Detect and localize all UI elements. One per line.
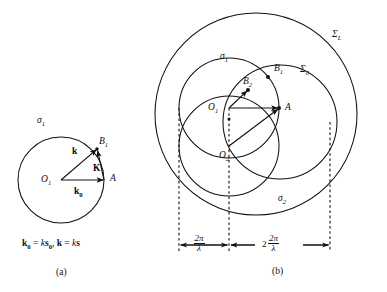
panel-b-label-O2: O2 xyxy=(219,151,229,162)
panel-b-label-A: A xyxy=(285,103,291,113)
panel-a-graphics xyxy=(18,137,104,223)
panel-b-label-sigma-2: σ2 xyxy=(278,194,286,205)
panel-b-label-sigma-1: σ1 xyxy=(220,52,228,63)
panel-b-label-B1: B1 xyxy=(274,64,283,75)
panel-b-graphics xyxy=(155,13,357,254)
panel-b-vector-O1-B2 xyxy=(229,91,247,108)
panel-a-veclabel-K: K xyxy=(93,163,100,173)
panel-b-caption: (b) xyxy=(272,266,283,276)
panel-a-veclabel-k: k xyxy=(72,146,77,156)
panel-b-label-Sigma-0: Σ0 xyxy=(300,65,309,76)
panel-b-circle-Sigma-0 xyxy=(223,65,337,179)
panel-a-veclabel-k0: k0 xyxy=(74,186,83,198)
panel-b-dim-diameter-label: 2 2π λ xyxy=(262,234,279,254)
figure-root: σ1 O1 A B1 k0 k K k0 = ks0, k = ks (a) Σ… xyxy=(0,0,387,292)
panel-a-caption: (a) xyxy=(56,267,67,277)
panel-b-point-A-dot xyxy=(277,106,281,110)
panel-a-label-sigma-1: σ1 xyxy=(37,116,45,127)
panel-a-label-O1: O1 xyxy=(41,175,51,186)
panel-a-equation: k0 = ks0, k = ks xyxy=(22,238,80,250)
panel-b-vector-O2-A xyxy=(229,109,278,146)
panel-b-label-Sigma-L: ΣL xyxy=(332,30,341,41)
panel-b-dim-radius-label: 2π λ xyxy=(192,234,205,254)
panel-a-label-A: A xyxy=(110,174,116,184)
panel-a-vector-k xyxy=(61,150,96,180)
panel-b-point-B1-dot xyxy=(266,75,270,79)
panel-a-label-B1: B1 xyxy=(99,137,108,148)
panel-b-label-B2: B2 xyxy=(243,77,252,88)
panel-b-point-B2-dot xyxy=(246,88,250,92)
panel-b-circle-Sigma-L xyxy=(155,13,357,215)
panel-b-label-O1: O1 xyxy=(208,103,218,114)
